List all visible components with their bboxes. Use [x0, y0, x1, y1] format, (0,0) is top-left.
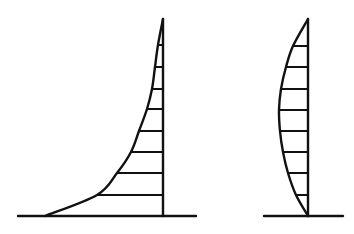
- profile-curve: [279, 19, 308, 216]
- profile-curve: [45, 19, 163, 216]
- left-profile: [18, 19, 196, 216]
- profile-diagram: [0, 0, 354, 234]
- right-profile: [264, 19, 343, 216]
- diagram-canvas: [0, 0, 354, 234]
